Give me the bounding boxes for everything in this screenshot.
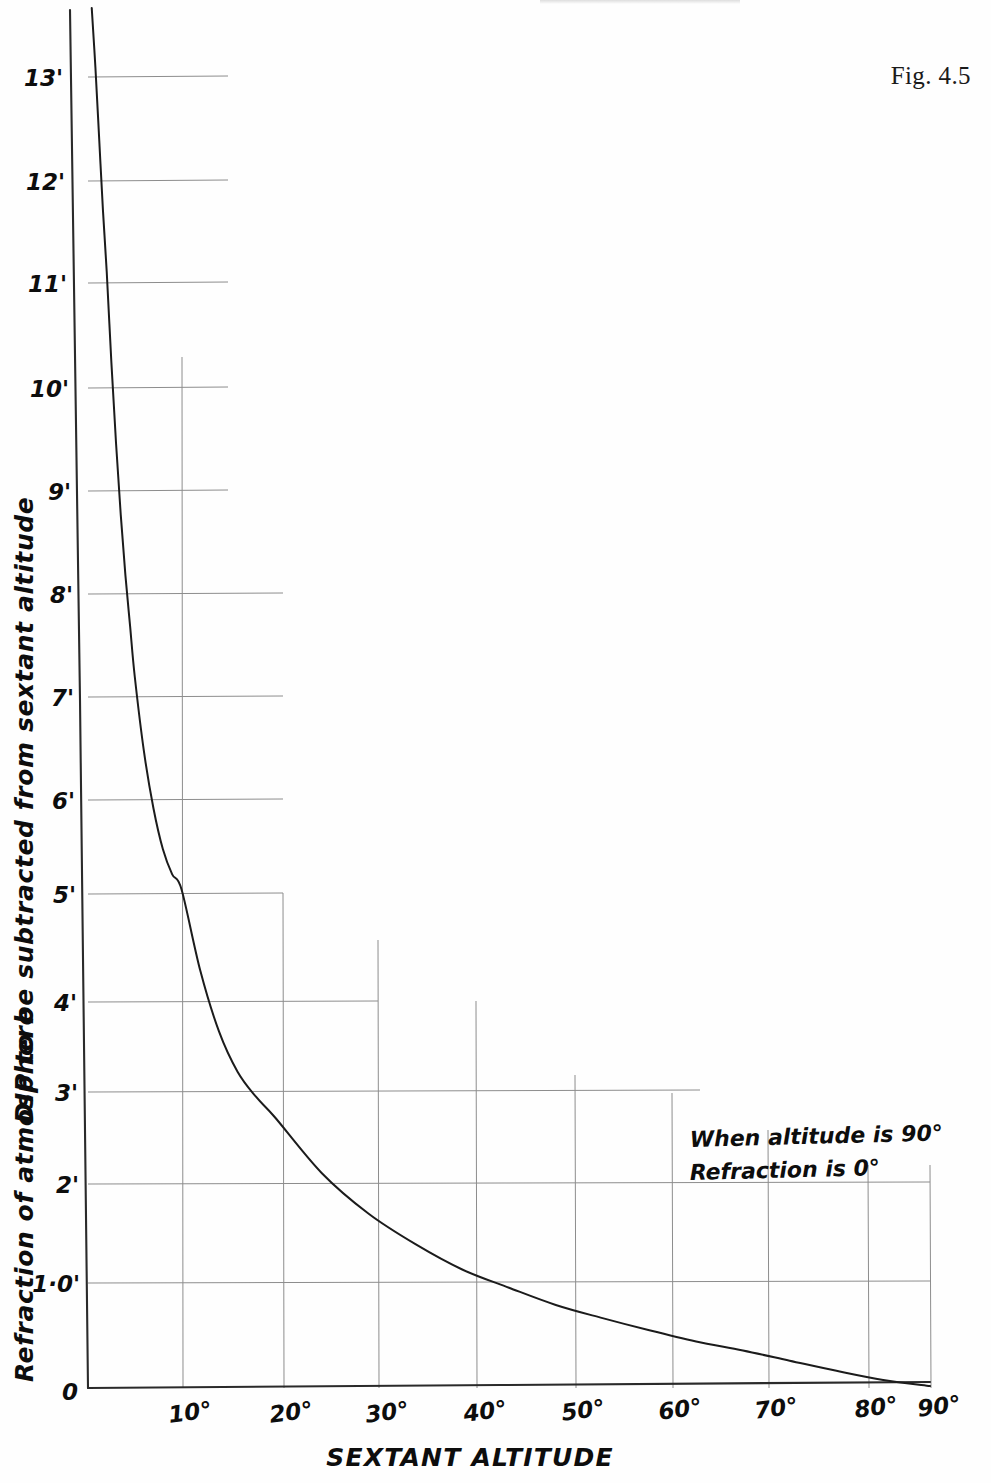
gridline-y-5 xyxy=(88,893,283,894)
gridline-x-30 xyxy=(378,940,379,1388)
y-axis-title-refraction: Refraction of atmosphere xyxy=(10,1008,39,1382)
chart-annotation: When altitude is 90° Refraction is 0° xyxy=(689,1120,943,1185)
gridline-x-20 xyxy=(283,893,284,1388)
y-tick-label: 8' xyxy=(50,582,73,608)
grid-lines-vertical xyxy=(182,357,931,1388)
x-tick-label: 10° xyxy=(167,1397,213,1428)
y-tick-label: 7' xyxy=(51,685,74,711)
y-tick-label: 13' xyxy=(24,65,63,91)
x-tick-label: 80° xyxy=(853,1392,899,1423)
x-tick-label: 60° xyxy=(657,1394,703,1425)
gridline-y-10 xyxy=(88,387,228,388)
x-axis-title: SEXTANT ALTITUDE xyxy=(326,1443,613,1472)
gridline-x-40 xyxy=(476,1001,477,1388)
gridline-y-13 xyxy=(88,76,228,77)
gridline-y-4 xyxy=(88,1001,378,1002)
x-tick-label: 20° xyxy=(268,1397,314,1428)
y-tick-label: 12' xyxy=(26,169,65,195)
x-tick-label: 90° xyxy=(916,1391,962,1422)
y-tick-label: 11' xyxy=(28,271,67,297)
y-tick-label: 2' xyxy=(56,1172,79,1198)
y-tick-label: 6' xyxy=(52,788,75,814)
gridline-y-9 xyxy=(88,490,228,491)
x-tick-label: 40° xyxy=(461,1396,508,1427)
y-tick-label: 4' xyxy=(53,990,77,1016)
x-axis-line xyxy=(88,1382,930,1388)
x-axis-tick-labels: 10° 20° 30° 40° 50° 60° 70° 80° 90° xyxy=(167,1391,962,1428)
gridline-y-12 xyxy=(88,180,228,181)
gridline-y-8 xyxy=(88,593,283,594)
y-tick-label: 3' xyxy=(55,1080,78,1106)
gridline-x-90 xyxy=(930,1165,931,1388)
x-tick-label: 70° xyxy=(753,1393,799,1424)
y-tick-label: 1·0' xyxy=(32,1271,80,1297)
x-tick-label: 50° xyxy=(560,1395,606,1426)
x-tick-label: 30° xyxy=(364,1397,410,1428)
gridline-x-60 xyxy=(672,1093,673,1388)
y-tick-label: 10' xyxy=(30,376,69,402)
gridline-y-2 xyxy=(88,1182,930,1184)
annotation-line-1: When altitude is 90° xyxy=(689,1120,943,1152)
gridline-y-1 xyxy=(88,1281,930,1283)
gridline-y-6 xyxy=(88,799,283,800)
refraction-dip-chart: 13' 12' 11' 10' 9' 8' 7' 6' 5' 4' 3' 2' … xyxy=(0,0,991,1483)
annotation-line-2: Refraction is 0° xyxy=(689,1155,880,1185)
gridline-y-7 xyxy=(88,696,283,697)
y-origin-label: 0 xyxy=(62,1379,78,1405)
grid-lines-horizontal xyxy=(88,76,930,1283)
gridline-x-10 xyxy=(182,357,183,1388)
gridline-x-50 xyxy=(575,1075,576,1388)
y-tick-label: 9' xyxy=(48,479,71,505)
gridline-x-80 xyxy=(868,1165,869,1388)
y-tick-label: 5' xyxy=(53,882,76,908)
gridline-y-3 xyxy=(88,1090,700,1092)
gridline-y-11 xyxy=(88,282,228,283)
